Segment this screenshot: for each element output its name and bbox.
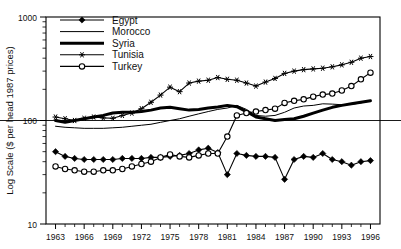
- marker-open-circle: [206, 151, 211, 156]
- marker-open-circle: [253, 109, 258, 114]
- x-tick-label: 1969: [103, 232, 122, 242]
- x-tick-label: 1966: [75, 232, 94, 242]
- marker-open-circle: [148, 159, 153, 164]
- marker-open-circle: [81, 169, 86, 174]
- x-tick-label: 1996: [361, 232, 380, 242]
- marker-open-circle: [120, 166, 125, 171]
- marker-open-circle: [244, 110, 249, 115]
- legend-label: Turkey: [112, 61, 142, 72]
- marker-open-circle: [263, 107, 268, 112]
- marker-open-circle: [291, 98, 296, 103]
- marker-open-circle: [139, 161, 144, 166]
- marker-open-circle: [110, 168, 115, 173]
- marker-open-circle: [177, 154, 182, 159]
- marker-open-circle: [330, 91, 335, 96]
- y-tick-label: 100: [23, 116, 37, 126]
- marker-open-circle: [339, 88, 344, 93]
- marker-open-circle: [225, 134, 230, 139]
- marker-open-circle: [186, 155, 191, 160]
- marker-open-circle: [368, 70, 373, 75]
- marker-open-circle: [91, 169, 96, 174]
- marker-open-circle: [234, 113, 239, 118]
- chart-container: Log Scale ($ per head 1987 prices) 10001…: [0, 0, 401, 249]
- legend-label: Morocco: [112, 26, 151, 37]
- x-tick-label: 1993: [332, 232, 351, 242]
- marker-open-circle: [320, 92, 325, 97]
- x-tick-label: 1963: [46, 232, 65, 242]
- marker-open-circle: [349, 83, 354, 88]
- x-tick-label: 1981: [218, 232, 237, 242]
- marker-open-circle: [311, 94, 316, 99]
- x-tick-label: 1984: [246, 232, 265, 242]
- marker-open-circle: [301, 97, 306, 102]
- x-tick-label: 1990: [304, 232, 323, 242]
- y-tick-label: 10: [28, 220, 38, 230]
- marker-open-circle: [101, 168, 106, 173]
- marker-open-circle: [79, 64, 84, 69]
- legend-label: Egypt: [112, 15, 138, 26]
- x-tick-label: 1978: [189, 232, 208, 242]
- marker-open-circle: [358, 77, 363, 82]
- chart-background: [0, 0, 401, 249]
- marker-open-circle: [53, 164, 58, 169]
- marker-open-circle: [282, 100, 287, 105]
- log-scale-line-chart: Log Scale ($ per head 1987 prices) 10001…: [0, 0, 401, 249]
- x-tick-label: 1975: [161, 232, 180, 242]
- marker-open-circle: [196, 153, 201, 158]
- marker-open-circle: [72, 168, 77, 173]
- marker-open-circle: [129, 164, 134, 169]
- marker-open-circle: [62, 166, 67, 171]
- legend-label: Syria: [112, 38, 135, 49]
- x-tick-label: 1987: [275, 232, 294, 242]
- marker-open-circle: [158, 155, 163, 160]
- x-tick-label: 1972: [132, 232, 151, 242]
- marker-open-circle: [215, 151, 220, 156]
- y-tick-label: 1000: [18, 13, 37, 23]
- marker-open-circle: [167, 152, 172, 157]
- legend-label: Tunisia: [112, 49, 144, 60]
- marker-open-circle: [272, 106, 277, 111]
